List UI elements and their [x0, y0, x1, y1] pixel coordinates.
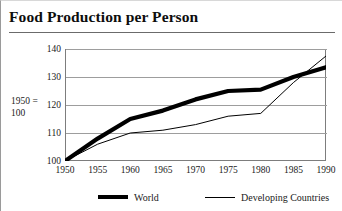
series-line-developing-countries: [65, 56, 326, 161]
x-tick-label: 1960: [113, 164, 147, 176]
x-axis-ticks: 195019551960196519701975198019851990: [65, 164, 326, 178]
x-tick-label: 1975: [211, 164, 245, 176]
x-tick-label: 1950: [48, 164, 82, 176]
chart-lines: [65, 49, 326, 161]
y-tick-label: 130: [35, 72, 61, 82]
x-tick-label: 1970: [179, 164, 213, 176]
plot-area-wrapper: [65, 49, 326, 161]
legend-item-world[interactable]: World: [98, 187, 159, 201]
legend-item-developing-countries[interactable]: Developing Countries: [205, 187, 329, 201]
x-tick-label: 1985: [276, 164, 310, 176]
legend-swatch-icon: [205, 197, 235, 198]
x-tick-label: 1980: [244, 164, 278, 176]
legend-label: World: [134, 191, 159, 204]
x-tick-label: 1955: [81, 164, 115, 176]
x-tick-label: 1965: [146, 164, 180, 176]
y-tick-label: 110: [35, 128, 61, 138]
chart-figure: Food Production per Person 1950 = 100 10…: [0, 0, 342, 211]
y-axis-ticks: 100110120130140: [33, 1, 61, 211]
x-tick-label: 1990: [309, 164, 342, 176]
series-line-world: [65, 67, 326, 161]
legend-swatch-icon: [98, 195, 128, 199]
legend-label: Developing Countries: [241, 191, 329, 204]
chart-legend: WorldDeveloping Countries: [65, 187, 326, 201]
y-tick-label: 140: [35, 44, 61, 54]
y-tick-label: 120: [35, 100, 61, 110]
